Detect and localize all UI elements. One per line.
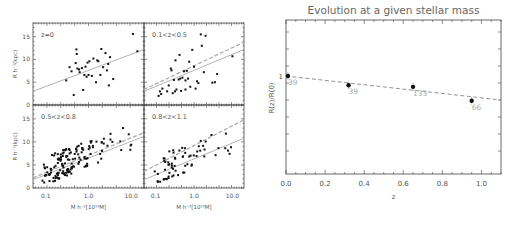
data-point bbox=[66, 155, 68, 157]
data-point bbox=[227, 150, 229, 152]
data-point bbox=[54, 175, 56, 177]
data-point bbox=[71, 162, 73, 164]
data-point bbox=[163, 160, 165, 162]
data-point bbox=[168, 176, 170, 178]
data-point bbox=[132, 33, 134, 35]
y-tick-label: 10 bbox=[22, 138, 30, 145]
y-tick-label: 15 bbox=[22, 33, 30, 40]
data-point bbox=[60, 156, 62, 158]
solid-fit-line bbox=[144, 138, 244, 180]
dashed-fit-line bbox=[144, 120, 244, 172]
data-point bbox=[184, 79, 186, 81]
data-point bbox=[62, 155, 64, 157]
x-tick-label: 10.0 bbox=[124, 192, 138, 199]
data-point bbox=[46, 166, 48, 168]
data-point bbox=[81, 67, 83, 69]
y-tick-label: 5 bbox=[26, 78, 30, 85]
data-point bbox=[70, 173, 72, 175]
data-point bbox=[191, 49, 193, 51]
data-point bbox=[73, 94, 75, 96]
scatter-panel-top-right: 0.1<z<0.5 bbox=[144, 23, 244, 105]
data-point bbox=[84, 66, 86, 68]
data-point bbox=[68, 148, 70, 150]
data-point bbox=[43, 166, 45, 168]
data-point bbox=[50, 168, 52, 170]
data-point bbox=[109, 56, 111, 58]
data-point bbox=[174, 157, 176, 159]
data-point bbox=[64, 162, 66, 164]
data-point bbox=[49, 173, 51, 175]
data-point bbox=[54, 152, 56, 154]
data-point bbox=[174, 165, 176, 167]
data-point bbox=[203, 155, 205, 157]
data-point bbox=[225, 133, 227, 135]
data-point bbox=[210, 134, 212, 136]
y-axis-label: R(z)/R(0) bbox=[268, 82, 276, 113]
data-point bbox=[101, 142, 103, 144]
data-point bbox=[72, 158, 74, 160]
data-point bbox=[95, 81, 97, 83]
scatter-panel-bottom-left: 0.5<z<0.80510150.11.010.0M h⁻²[10¹⁰M]R h… bbox=[12, 105, 144, 210]
x-axis-label: M h⁻²[10¹⁰M] bbox=[71, 204, 107, 210]
data-point bbox=[74, 153, 76, 155]
data-point bbox=[71, 166, 73, 168]
data-point bbox=[184, 89, 186, 91]
sample-count-label: 133 bbox=[413, 89, 428, 98]
data-point bbox=[179, 78, 181, 80]
data-point bbox=[81, 151, 83, 153]
data-point bbox=[71, 70, 73, 72]
data-point bbox=[61, 164, 63, 166]
dashed-fit-line bbox=[286, 76, 501, 100]
x-tick-label: 1.0 bbox=[189, 192, 199, 199]
data-point bbox=[186, 70, 188, 72]
dashed-fit-line bbox=[33, 133, 144, 178]
data-point bbox=[104, 52, 106, 54]
data-point bbox=[163, 179, 165, 181]
data-point bbox=[191, 164, 193, 166]
data-point bbox=[89, 147, 91, 149]
data-point bbox=[103, 138, 105, 140]
data-point bbox=[80, 143, 82, 145]
data-point bbox=[77, 153, 79, 155]
data-point bbox=[217, 147, 219, 149]
data-point bbox=[163, 157, 165, 159]
data-point bbox=[76, 53, 78, 55]
data-point bbox=[179, 54, 181, 56]
data-point bbox=[101, 150, 103, 152]
data-point bbox=[231, 55, 233, 57]
data-point bbox=[100, 48, 102, 50]
data-point bbox=[188, 61, 190, 63]
data-point bbox=[68, 170, 70, 172]
x-tick-label: 1.0 bbox=[84, 192, 94, 199]
data-point bbox=[157, 181, 159, 183]
data-point bbox=[95, 141, 97, 143]
scatter-panel-top-left: z=0051015R h⁻¹(kpc) bbox=[12, 23, 144, 108]
data-point bbox=[136, 50, 138, 52]
data-point bbox=[168, 84, 170, 86]
data-point bbox=[196, 155, 198, 157]
data-point bbox=[160, 93, 162, 95]
data-point bbox=[211, 82, 213, 84]
data-point bbox=[199, 150, 201, 152]
data-point bbox=[193, 66, 195, 68]
data-point bbox=[45, 174, 47, 176]
data-point bbox=[66, 174, 68, 176]
data-point bbox=[57, 153, 59, 155]
data-point bbox=[79, 71, 81, 73]
data-point bbox=[201, 45, 203, 47]
data-point bbox=[166, 90, 168, 92]
data-point bbox=[66, 169, 68, 171]
data-point bbox=[120, 149, 122, 151]
x-tick-label: 0.2 bbox=[320, 180, 331, 188]
scatter-panel-bottom-right: 0.8<z<1.10.11.010.0M h⁻²[10¹⁰M] bbox=[144, 105, 244, 210]
data-point bbox=[119, 140, 121, 142]
data-point bbox=[184, 152, 186, 154]
data-point bbox=[85, 158, 87, 160]
data-point bbox=[195, 88, 197, 90]
x-tick-label: 1.0 bbox=[476, 180, 487, 188]
data-point bbox=[82, 89, 84, 91]
data-point bbox=[57, 172, 59, 174]
data-point bbox=[41, 180, 43, 182]
data-point bbox=[154, 170, 156, 172]
data-point bbox=[78, 161, 80, 163]
